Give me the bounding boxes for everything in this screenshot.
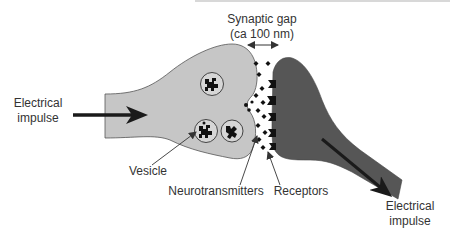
- synaptic-gap-label-line1: Synaptic gap: [222, 12, 302, 27]
- neurotransmitters-label: Neurotransmitters: [166, 184, 266, 199]
- output-impulse-label: Electrical impulse: [378, 199, 442, 229]
- receptors-pointer: [268, 152, 280, 185]
- vesicle-bottom-left: [195, 120, 218, 143]
- input-impulse-label: Electrical impulse: [6, 96, 70, 126]
- input-impulse-label-line2: impulse: [6, 111, 70, 126]
- output-impulse-label-line1: Electrical: [378, 199, 442, 214]
- vesicle-label: Vesicle: [118, 164, 178, 179]
- receptors-label: Receptors: [271, 184, 331, 199]
- vesicle-top: [201, 73, 224, 96]
- input-impulse-label-line1: Electrical: [6, 96, 70, 111]
- synaptic-gap-label: Synaptic gap (ca 100 nm): [222, 12, 302, 42]
- postsynaptic-cell: [272, 58, 402, 199]
- synaptic-gap-label-line2: (ca 100 nm): [222, 27, 302, 42]
- output-impulse-label-line2: impulse: [378, 214, 442, 229]
- vesicle-bottom-right: [221, 120, 243, 142]
- synapse-diagram: Synaptic gap (ca 100 nm) Electrical impu…: [0, 0, 450, 238]
